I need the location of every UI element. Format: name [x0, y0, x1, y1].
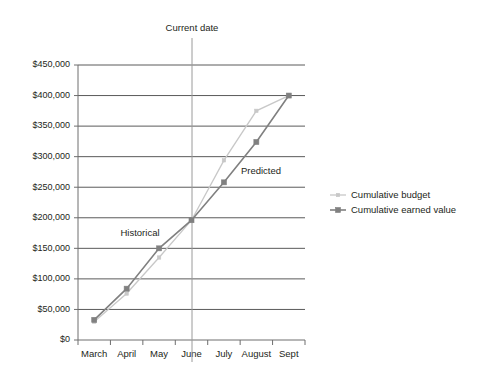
data-point-marker	[189, 218, 194, 223]
x-axis-tick-label: July	[215, 348, 232, 359]
predicted-annotation-label: Predicted	[241, 165, 281, 176]
data-point-marker	[124, 286, 129, 291]
y-axis-tick-label: $250,000	[32, 182, 70, 192]
y-axis-tick-label: $350,000	[32, 120, 70, 130]
y-axis-tick-label: $0	[60, 334, 70, 344]
data-point-marker	[221, 180, 226, 185]
data-point-marker	[157, 246, 162, 251]
line-chart: $0$50,000$100,000$150,000$200,000$250,00…	[0, 0, 484, 386]
data-point-marker	[92, 317, 97, 322]
y-axis-tick-label: $200,000	[32, 212, 70, 222]
x-axis-tick-label: Sept	[279, 348, 299, 359]
data-point-marker	[222, 159, 225, 162]
y-axis-tick-label: $300,000	[32, 151, 70, 161]
y-axis-tick-label: $150,000	[32, 243, 70, 253]
current-date-label: Current date	[166, 22, 219, 33]
legend-swatch-marker	[336, 193, 339, 196]
y-axis-tick-label: $100,000	[32, 273, 70, 283]
legend-item-label: Cumulative budget	[351, 189, 431, 200]
x-axis-tick-label: May	[150, 348, 168, 359]
x-axis-tick-label: March	[81, 348, 107, 359]
data-point-marker	[255, 109, 258, 112]
x-axis-tick-label: April	[117, 348, 136, 359]
y-axis-tick-label: $400,000	[32, 90, 70, 100]
data-point-marker	[157, 256, 160, 259]
legend-item-label: Cumulative earned value	[351, 204, 456, 215]
historical-annotation-label: Historical	[120, 227, 159, 238]
y-axis-tick-label: $50,000	[37, 304, 70, 314]
chart-container: $0$50,000$100,000$150,000$200,000$250,00…	[0, 0, 484, 386]
y-axis-tick-label: $450,000	[32, 59, 70, 69]
legend-swatch-marker	[336, 208, 341, 213]
x-axis-tick-label: August	[242, 348, 272, 359]
data-point-marker	[286, 93, 291, 98]
data-point-marker	[254, 140, 259, 145]
data-point-marker	[125, 292, 128, 295]
